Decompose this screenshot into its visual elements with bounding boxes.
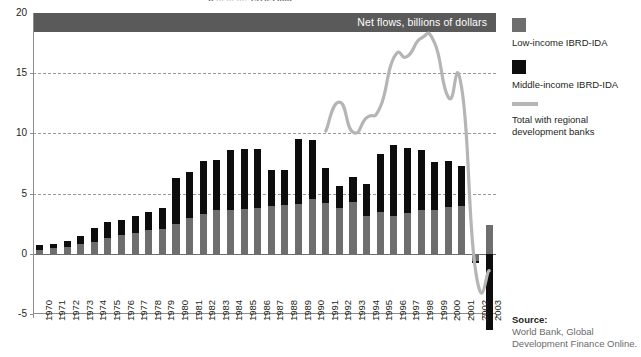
y-axis-tick-label: 20 (3, 8, 27, 18)
y-axis-tick-label: 5 (3, 189, 27, 199)
legend-label: Total with regional development banks (512, 114, 638, 138)
y-axis-tick-mark (30, 254, 34, 255)
legend: Low-income IBRD-IDAMiddle-income IBRD-ID… (512, 18, 638, 149)
legend-label: Low-income IBRD-IDA (512, 37, 638, 49)
source-text: World Bank, Global Development Finance O… (512, 326, 640, 350)
y-axis-tick-mark (30, 133, 34, 134)
legend-item[interactable]: Total with regional development banks (512, 102, 638, 138)
figure-net-flows: p ... ... ..., 1970-2003 Net flows, bill… (0, 0, 641, 357)
y-axis-tick-label: 15 (3, 68, 27, 78)
source-heading: Source: (512, 314, 640, 326)
legend-swatch-low (512, 18, 526, 32)
legend-label: Middle-income IBRD-IDA (512, 79, 638, 91)
legend-swatch-mid (512, 60, 526, 74)
source-block: Source: World Bank, Global Development F… (512, 314, 640, 350)
legend-swatch-line (512, 102, 538, 106)
y-axis-tick-mark (30, 73, 34, 74)
y-axis-tick-mark (30, 314, 34, 315)
y-axis-tick-label: 10 (3, 128, 27, 138)
y-axis-tick-mark (30, 194, 34, 195)
legend-item[interactable]: Middle-income IBRD-IDA (512, 60, 638, 91)
y-axis-tick-label: -5 (3, 309, 27, 319)
y-axis-tick-label: 0 (3, 249, 27, 259)
legend-item[interactable]: Low-income IBRD-IDA (512, 18, 638, 49)
